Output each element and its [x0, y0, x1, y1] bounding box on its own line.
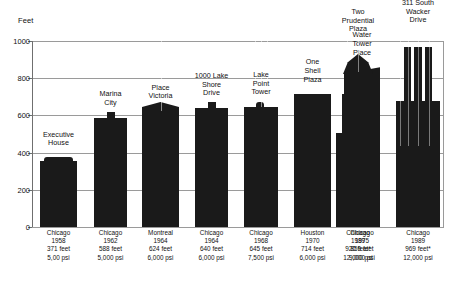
label-city: Chicago — [238, 229, 284, 237]
label-height: 969 feet* — [390, 245, 446, 253]
label-city: Chicago — [88, 229, 133, 237]
label-height: 371 feet — [34, 245, 83, 253]
bar-body — [94, 118, 127, 227]
bar-label-line: City — [100, 99, 122, 108]
bar-5[interactable]: LakePointTower — [244, 20, 278, 227]
label-height: 714 feet — [288, 245, 337, 253]
bar-label-8: TwoPrudentialPlaza — [342, 8, 374, 34]
bar-1[interactable]: ExecutiveHouse — [40, 20, 77, 227]
label-year: 1968 — [238, 237, 284, 245]
x-label-8: Chicago1989920 feet*12,000 psi — [340, 229, 376, 262]
facade-stripe-2 — [408, 20, 409, 146]
bar-label-9: 311 SouthWackerDrive — [402, 0, 434, 25]
bar-label-1: ExecutiveHouse — [43, 131, 74, 148]
y-axis-tick-labels: 02004006008001000 — [0, 0, 30, 281]
label-strength: 7,500 psi — [238, 254, 284, 262]
label-city: Montreal — [136, 229, 185, 237]
facade-stripe-1 — [400, 20, 401, 146]
y-tick-label-800: 800 — [4, 74, 30, 83]
building-height-bar-chart: Feet 02004006008001000 ExecutiveHouseMar… — [0, 0, 452, 281]
label-year: 1964 — [189, 237, 234, 245]
bar-label-2: MarinaCity — [100, 90, 122, 107]
bar-8[interactable]: TwoPrudentialPlaza — [346, 20, 370, 227]
bar-body — [40, 161, 77, 227]
label-year: 1958 — [34, 237, 83, 245]
label-year: 1989 — [390, 237, 446, 245]
label-strength: 12,000 psi — [340, 254, 376, 262]
core-gap-2 — [422, 47, 425, 101]
label-city: Chicago — [189, 229, 234, 237]
x-label-6: Houston1970714 feet6,000 psi — [288, 229, 337, 262]
bar-3[interactable]: PlaceVictoria — [142, 20, 179, 227]
bar-label-6: OneShellPlaza — [304, 58, 322, 84]
label-height: 588 feet — [88, 245, 133, 253]
bar-6[interactable]: OneShellPlaza — [294, 20, 331, 227]
label-strength: 6,000 psi — [136, 254, 185, 262]
bar-label-line: Drive — [195, 89, 229, 98]
bar-label-line: Tower — [251, 88, 270, 97]
core-gap-1 — [411, 47, 414, 101]
label-strength: 6,000 psi — [288, 254, 337, 262]
bar-label-line: Plaza — [304, 76, 322, 85]
x-label-2: Chicago1962588 feet5,000 psi — [88, 229, 133, 262]
label-height: 624 feet — [136, 245, 185, 253]
label-city: Chicago — [34, 229, 83, 237]
label-height: 645 feet — [238, 245, 284, 253]
label-city: Chicago — [340, 229, 376, 237]
bar-label-line: Drive — [402, 16, 434, 25]
bar-label-line: House — [43, 139, 74, 148]
label-height: 920 feet* — [340, 245, 376, 253]
bar-body — [195, 108, 228, 227]
label-height: 640 feet — [189, 245, 234, 253]
label-city: Chicago — [390, 229, 446, 237]
bar-9[interactable]: 311 SouthWackerDrive — [396, 20, 440, 227]
y-tick-label-600: 600 — [4, 111, 30, 120]
bar-label-line: Victoria — [149, 92, 173, 101]
label-year: 1964 — [136, 237, 185, 245]
bar-label-4: 1000 LakeShoreDrive — [195, 72, 229, 98]
label-year: 1970 — [288, 237, 337, 245]
bar-body — [346, 72, 370, 227]
bar-label-line: Plaza — [342, 25, 374, 34]
plot-area: ExecutiveHouseMarinaCityPlaceVictoria100… — [32, 20, 444, 227]
label-year: 1989 — [340, 237, 376, 245]
x-label-3: Montreal1964624 feet6,000 psi — [136, 229, 185, 262]
x-label-4: Chicago1964640 feet6,000 psi — [189, 229, 234, 262]
bar-label-3: PlaceVictoria — [149, 84, 173, 101]
x-label-9: Chicago1989969 feet*12,000 psi — [390, 229, 446, 262]
label-city: Houston — [288, 229, 337, 237]
bar-body — [142, 111, 179, 227]
facade-stripe-3 — [418, 20, 419, 146]
gridline-0 — [32, 227, 444, 228]
x-axis-labels: Chicago1958371 feet5,00 psiChicago196258… — [32, 229, 444, 277]
y-tick-label-400: 400 — [4, 148, 30, 157]
y-tick-label-1000: 1000 — [4, 37, 30, 46]
facade-stripe-4 — [429, 20, 430, 146]
label-strength: 6,000 psi — [189, 254, 234, 262]
x-label-5: Chicago1968645 feet7,500 psi — [238, 229, 284, 262]
x-label-1: Chicago1958371 feet5,00 psi — [34, 229, 83, 262]
label-strength: 5,00 psi — [34, 254, 83, 262]
label-strength: 5,000 psi — [88, 254, 133, 262]
bar-4[interactable]: 1000 LakeShoreDrive — [195, 20, 228, 227]
y-tick-label-0: 0 — [4, 223, 30, 232]
label-strength: 12,000 psi — [390, 254, 446, 262]
bar-2[interactable]: MarinaCity — [94, 20, 127, 227]
y-tick-label-200: 200 — [4, 185, 30, 194]
bar-body — [244, 107, 278, 227]
bar-label-5: LakePointTower — [251, 71, 270, 97]
bar-body — [294, 94, 331, 227]
label-year: 1962 — [88, 237, 133, 245]
